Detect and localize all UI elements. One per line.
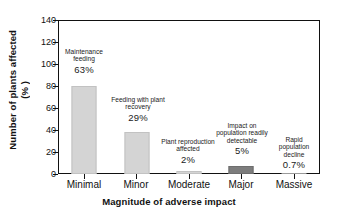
x-category-massive: Massive [259,179,329,191]
data-label-minor: 29% [102,112,174,124]
bar-minimal[interactable] [72,86,97,174]
annotation-massive-text: Rapid population decline [279,136,309,158]
annotation-major: Impact on population readily detectable … [207,114,277,165]
data-label-massive: 0.7% [268,159,320,171]
annotation-massive: Rapid population decline 0.7% [268,128,320,179]
bar-minor[interactable] [124,132,149,174]
annotation-minimal-text: Maintenance feeding [65,48,103,63]
y-tick-mark-0 [53,174,58,175]
data-label-major: 5% [207,145,277,157]
data-label-minimal: 63% [53,64,115,76]
x-axis-title: Magnitude of adverse impact [0,196,338,207]
annotation-minimal: Maintenance feeding 63% [53,40,115,83]
annotation-major-text: Impact on population readily detectable [216,122,268,144]
bar-major[interactable] [229,166,254,174]
annotation-minor-text: Feeding with plant recovery [111,96,165,111]
bar-chart-figure: Number of plants affected (% ) 0 20 40 6… [0,0,338,213]
annotation-minor: Feeding with plant recovery 29% [102,88,174,131]
y-axis-title-text: Number of plants affected (% ) [7,30,31,150]
